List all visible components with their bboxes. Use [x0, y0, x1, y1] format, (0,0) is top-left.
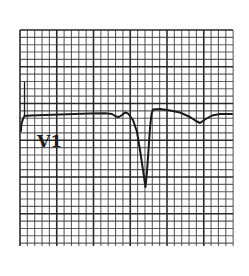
lead-label-v1: V1: [37, 133, 62, 150]
ecg-strip: V1: [0, 0, 249, 276]
